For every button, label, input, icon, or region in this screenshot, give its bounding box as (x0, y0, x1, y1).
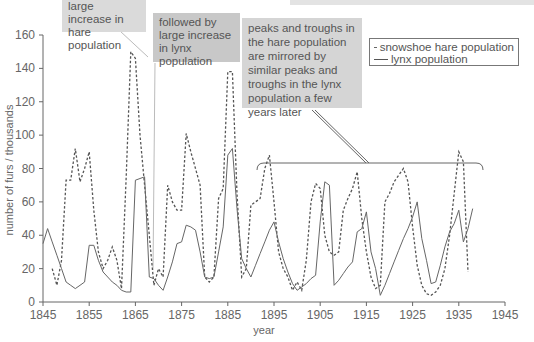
y-axis-ticks: 020406080100120140160 (15, 28, 43, 309)
legend-item-lynx: lynx population (374, 53, 514, 65)
x-tick-label: 1935 (445, 308, 472, 322)
y-tick-label: 100 (15, 128, 35, 142)
y-tick-label: 160 (15, 28, 35, 42)
x-tick-label: 1845 (30, 308, 57, 322)
x-tick-label: 1915 (353, 308, 380, 322)
y-tick-label: 60 (22, 195, 36, 209)
legend-item-hare: snowshoe hare population (374, 41, 514, 53)
x-tick-label: 1865 (122, 308, 149, 322)
y-tick-label: 0 (28, 295, 35, 309)
callout-hare-increase: large increase in hare population (62, 0, 146, 32)
callout-mirror: peaks and troughs in the hare population… (242, 18, 362, 108)
top-banner (290, 0, 534, 5)
y-axis-title: number of furs / thousands (3, 104, 15, 235)
x-tick-label: 1855 (76, 308, 103, 322)
solid-line-swatch-icon (374, 59, 388, 60)
bracket (257, 163, 483, 170)
y-tick-label: 20 (22, 262, 36, 276)
pointer-line (312, 110, 366, 163)
pointer-line (315, 110, 369, 163)
callout-lynx-increase: followed by large increase in lynx popul… (153, 13, 240, 62)
x-tick-label: 1885 (214, 308, 241, 322)
x-tick-label: 1945 (492, 308, 519, 322)
x-tick-label: 1895 (261, 308, 288, 322)
legend-label-hare: snowshoe hare population (380, 41, 514, 53)
pointer-line-lynx (153, 63, 155, 270)
x-tick-label: 1875 (168, 308, 195, 322)
x-axis-title: year (253, 324, 275, 336)
y-tick-label: 40 (22, 228, 36, 242)
y-tick-label: 120 (15, 95, 35, 109)
legend-label-lynx: lynx population (391, 53, 468, 65)
legend: snowshoe hare population lynx population (369, 38, 519, 66)
lynx-population-line (43, 149, 473, 296)
pointer-line-hare (120, 31, 148, 57)
x-axis-ticks: 1845185518651875188518951905191519251935… (30, 302, 519, 322)
dashed-line-swatch-icon (374, 47, 377, 48)
y-tick-label: 80 (22, 162, 36, 176)
x-tick-label: 1905 (307, 308, 334, 322)
y-tick-label: 140 (15, 61, 35, 75)
x-tick-label: 1925 (399, 308, 426, 322)
